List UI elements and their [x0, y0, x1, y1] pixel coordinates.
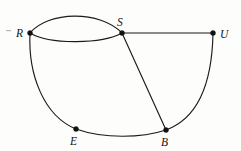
vertex-R	[28, 31, 33, 36]
vertex-label-U: U	[220, 28, 229, 40]
vertex-U	[211, 31, 216, 36]
vertex-S	[120, 31, 125, 36]
speck-icon	[6, 30, 11, 31]
scan-artifacts-group	[6, 30, 11, 31]
vertex-label-R: R	[15, 27, 23, 39]
vertex-label-B: B	[161, 136, 168, 148]
edge-R-E	[30, 33, 76, 129]
edge-R-S-lower	[30, 33, 122, 42]
edge-S-B	[122, 33, 166, 130]
vertex-labels-group: R S U E B	[15, 16, 229, 148]
vertex-E	[74, 127, 79, 132]
vertex-label-E: E	[69, 135, 77, 147]
edge-B-U	[166, 33, 213, 130]
edge-E-B	[76, 129, 166, 136]
edge-R-S-upper	[30, 16, 122, 33]
graph-canvas: R S U E B	[0, 0, 241, 151]
vertex-label-S: S	[117, 16, 123, 28]
vertex-B	[164, 128, 169, 133]
graph-figure: R S U E B	[0, 0, 241, 151]
